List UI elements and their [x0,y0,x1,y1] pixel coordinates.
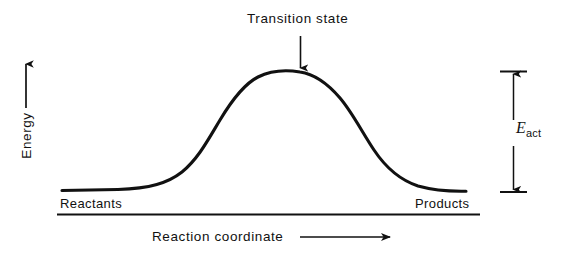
y-axis-title: Energy [19,104,34,168]
products-label: Products [415,196,470,211]
activation-energy-symbol: E [516,119,526,136]
energy-profile-plot [0,0,565,254]
energy-curve [62,71,466,191]
reactants-label: Reactants [60,196,122,211]
x-axis-title: Reaction coordinate [152,229,283,244]
activation-energy-subscript: act [526,127,541,139]
transition-state-label: Transition state [247,11,348,26]
activation-energy-label: Eact [516,119,541,139]
reaction-energy-profile-figure: Transition state Reactants Products Reac… [0,0,565,254]
